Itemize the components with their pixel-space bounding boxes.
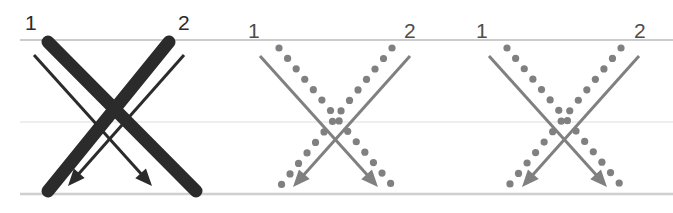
- dotted-1-to-right-dot: [370, 159, 377, 166]
- dotted-2-to-left-dot: [354, 86, 361, 93]
- dotted-2-to-left-dot: [371, 65, 378, 72]
- dotted-1-to-right-dot: [378, 169, 385, 176]
- dotted-2-to-left-dot: [303, 149, 310, 156]
- dotted-2-to-left-dot: [346, 97, 353, 104]
- dotted-2-to-left-dot: [286, 170, 293, 177]
- arrow-1-to-right-shaft: [489, 56, 598, 177]
- dotted-2-to-left-dot: [278, 181, 285, 188]
- panel-1-node-label-2: 2: [178, 11, 190, 34]
- arrow-2-to-left-shaft: [531, 56, 639, 177]
- panel-3-node-label-1: 1: [476, 19, 488, 42]
- dotted-1-to-right-dot: [353, 138, 360, 145]
- dotted-1-to-right-dot: [310, 86, 317, 93]
- dotted-2-to-left-dot: [609, 55, 616, 62]
- dotted-1-to-right-dot: [607, 169, 614, 176]
- dotted-1-to-right-dot: [529, 76, 536, 83]
- dotted-1-to-right-dot: [521, 65, 528, 72]
- dotted-2-to-left-dot: [566, 107, 573, 114]
- dotted-1-to-right-dot: [318, 96, 325, 103]
- dotted-1-to-right-dot: [616, 179, 623, 186]
- dotted-2-to-left-dot: [583, 86, 590, 93]
- dotted-1-to-right-dot: [547, 96, 554, 103]
- dotted-2-to-left-dot: [592, 76, 599, 83]
- dotted-2-to-left-dot: [532, 149, 539, 156]
- panel-1-node-label-1: 1: [25, 11, 37, 34]
- dotted-2-to-left-dot: [541, 138, 548, 145]
- dotted-1-to-right-dot: [512, 55, 519, 62]
- dotted-2-to-left-dot: [575, 97, 582, 104]
- dotted-2-to-left-dot: [617, 44, 624, 51]
- dotted-1-to-right-dot: [387, 180, 394, 187]
- dotted-2-to-left-dot: [380, 55, 387, 62]
- dotted-2-to-left-dot: [295, 160, 302, 167]
- dotted-1-to-right-dot: [503, 44, 510, 51]
- dotted-1-to-right-dot: [327, 107, 334, 114]
- dotted-2-to-left-dot: [523, 159, 530, 166]
- dotted-1-to-right-dot: [301, 76, 308, 83]
- dotted-1-to-right-dot: [564, 117, 571, 124]
- dotted-2-to-left-dot: [329, 118, 336, 125]
- dotted-2-to-left-dot: [388, 44, 395, 51]
- dotted-1-to-right-dot: [293, 65, 300, 72]
- dotted-1-to-right-dot: [581, 138, 588, 145]
- dotted-1-to-right-dot: [284, 55, 291, 62]
- dotted-2-to-left-dot: [506, 180, 513, 187]
- dotted-1-to-right-dot: [361, 149, 368, 156]
- panel-1: 12: [25, 11, 196, 191]
- dotted-2-to-left-dot: [337, 107, 344, 114]
- dotted-1-to-right-dot: [335, 117, 342, 124]
- arrow-2-to-left-shaft: [302, 56, 410, 177]
- dotted-2-to-left-dot: [363, 76, 370, 83]
- panel-3: 12: [476, 19, 646, 188]
- dotted-1-to-right-dot: [555, 107, 562, 114]
- figure-canvas: 121212: [0, 0, 673, 213]
- dotted-1-to-right-dot: [538, 86, 545, 93]
- dotted-2-to-left-dot: [600, 65, 607, 72]
- panel-2: 12: [248, 19, 416, 188]
- dotted-2-to-left-dot: [515, 170, 522, 177]
- dotted-1-to-right-dot: [590, 148, 597, 155]
- dotted-1-to-right-dot: [598, 159, 605, 166]
- panel-2-node-label-2: 2: [404, 19, 416, 42]
- panels-group: 121212: [25, 11, 646, 191]
- dotted-2-to-left-dot: [558, 118, 565, 125]
- panel-3-node-label-2: 2: [634, 19, 646, 42]
- panel-2-node-label-1: 1: [248, 19, 260, 42]
- dotted-2-to-left-dot: [312, 139, 319, 146]
- crossing-trajectories-figure: 121212: [0, 0, 673, 213]
- arrow-1-to-right-shaft: [260, 56, 369, 177]
- dotted-1-to-right-dot: [275, 44, 282, 51]
